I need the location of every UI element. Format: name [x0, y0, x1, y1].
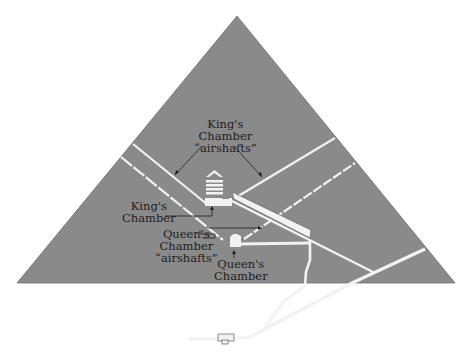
label-line: Chamber: [214, 270, 268, 282]
subterranean-pit: [222, 340, 228, 344]
label-line: Chamber: [122, 212, 176, 224]
queens-chamber: [230, 234, 241, 247]
label-line: “airshafts”: [155, 252, 218, 264]
kings-chamber: [205, 198, 232, 206]
kings-antechamber: [222, 194, 229, 199]
kings-chamber-airshafts-label: King's Chamber “airshafts”: [194, 118, 257, 154]
kings-chamber-label: King's Chamber: [122, 200, 176, 224]
queens-chamber-label: Queen's Chamber: [214, 258, 268, 282]
queens-chamber-airshafts-label: Queen's Chamber “airshafts”: [155, 228, 218, 264]
queens-horizontal-passage: [240, 243, 310, 244]
pyramid-diagram: [0, 0, 473, 359]
label-line: “airshafts”: [194, 142, 257, 154]
